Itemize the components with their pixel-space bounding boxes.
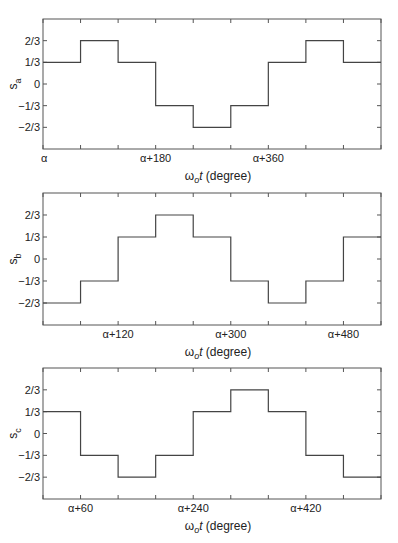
axes-frame: [43, 193, 381, 325]
y-tick-label: 1/3: [25, 231, 40, 243]
y-ticks: 2/31/30−1/3−2/3: [18, 384, 381, 483]
x-tick-label: α+360: [253, 152, 284, 164]
x-tick-label: α+240: [178, 502, 209, 514]
x-axis-label: ωot (degree): [185, 169, 251, 185]
x-axis-label: ωot (degree): [185, 519, 251, 535]
switching-function-trace: [43, 390, 381, 477]
figure-canvas: 2/31/30−1/3−2/3αα+180α+360saωot (degree)…: [0, 0, 398, 543]
y-ticks: 2/31/30−1/3−2/3: [18, 35, 381, 134]
axes-frame: [43, 19, 381, 149]
subplot-sc: 2/31/30−1/3−2/3α+60α+240α+420scωot (degr…: [6, 368, 381, 535]
y-axis-label: sa: [6, 78, 23, 89]
x-tick-label: α+480: [328, 328, 359, 340]
x-tick-label: α+420: [290, 502, 321, 514]
subplot-sb: 2/31/30−1/3−2/3α+120α+300α+480sbωot (deg…: [6, 193, 381, 361]
y-tick-label: −2/3: [18, 121, 40, 133]
y-tick-label: −2/3: [18, 297, 40, 309]
y-tick-label: 1/3: [25, 56, 40, 68]
subplot-sa: 2/31/30−1/3−2/3αα+180α+360saωot (degree): [6, 19, 381, 185]
x-tick-label: α+300: [215, 328, 246, 340]
x-tick-label: α+180: [140, 152, 171, 164]
y-tick-label: −1/3: [18, 275, 40, 287]
y-tick-label: 2/3: [25, 209, 40, 221]
y-tick-label: 2/3: [25, 35, 40, 47]
y-axis-label: sc: [6, 428, 23, 439]
axes-frame: [43, 368, 381, 499]
x-ticks: [43, 368, 381, 499]
x-ticks: [43, 193, 381, 325]
y-tick-label: −1/3: [18, 100, 40, 112]
y-tick-label: 0: [34, 428, 40, 440]
y-tick-label: 0: [34, 253, 40, 265]
y-tick-label: −1/3: [18, 449, 40, 461]
y-tick-label: 0: [34, 78, 40, 90]
x-ticks: [43, 19, 381, 149]
y-ticks: 2/31/30−1/3−2/3: [18, 209, 381, 309]
y-tick-label: 1/3: [25, 406, 40, 418]
x-axis-label: ωot (degree): [185, 345, 251, 361]
y-axis-label: sb: [6, 253, 23, 264]
y-tick-label: 2/3: [25, 384, 40, 396]
switching-function-trace: [43, 215, 381, 303]
y-tick-label: −2/3: [18, 471, 40, 483]
switching-function-figure: 2/31/30−1/3−2/3αα+180α+360saωot (degree)…: [0, 0, 398, 543]
x-tick-label: α+120: [103, 328, 134, 340]
x-tick-label: α: [41, 152, 48, 164]
switching-function-trace: [43, 41, 381, 128]
x-tick-label: α+60: [68, 502, 93, 514]
